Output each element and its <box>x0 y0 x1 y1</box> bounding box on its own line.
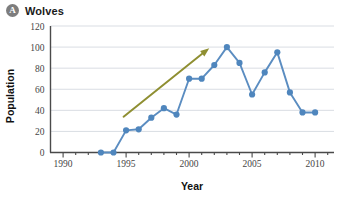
annotation-layer <box>124 48 210 117</box>
population-series-points <box>98 44 318 156</box>
y-tick-label-80: 80 <box>35 64 45 74</box>
data-point-2005 <box>249 91 255 97</box>
data-point-1995 <box>123 127 129 133</box>
data-point-2004 <box>236 60 242 66</box>
line-chart-plot: 020406080100120 19901995200020052010 Pop… <box>0 0 339 214</box>
data-point-2003 <box>224 44 230 50</box>
x-tick-label-2005: 2005 <box>243 159 262 169</box>
data-point-2001 <box>199 76 205 82</box>
y-tick-label-100: 100 <box>30 43 45 53</box>
data-point-1993 <box>98 149 104 155</box>
x-tick-label-2010: 2010 <box>306 159 325 169</box>
data-point-2010 <box>312 109 318 115</box>
data-point-2006 <box>262 69 268 75</box>
data-point-1999 <box>173 111 179 117</box>
data-point-1994 <box>110 149 116 155</box>
y-axis-title: Population <box>4 69 16 123</box>
x-tick-labels-group: 19901995200020052010 <box>54 159 325 169</box>
data-point-2009 <box>299 109 305 115</box>
x-axis-title: Year <box>181 180 203 192</box>
data-point-1998 <box>161 105 167 111</box>
data-point-2007 <box>274 49 280 55</box>
data-point-1997 <box>148 115 154 121</box>
chart-figure: A Wolves 020406080100120 199019952000200… <box>0 0 339 214</box>
data-point-1996 <box>136 126 142 132</box>
x-tick-label-1995: 1995 <box>117 159 136 169</box>
population-series-line <box>101 47 315 152</box>
y-tick-label-60: 60 <box>35 85 45 95</box>
y-tick-label-40: 40 <box>35 106 45 116</box>
y-tick-labels-group: 020406080100120 <box>30 22 45 159</box>
data-point-2002 <box>211 62 217 68</box>
y-tick-label-120: 120 <box>30 22 45 32</box>
data-point-2008 <box>287 89 293 95</box>
y-tick-label-0: 0 <box>40 148 45 158</box>
x-tick-label-1990: 1990 <box>54 159 73 169</box>
y-tick-label-20: 20 <box>35 127 45 137</box>
data-point-2000 <box>186 76 192 82</box>
x-tick-label-2000: 2000 <box>180 159 199 169</box>
